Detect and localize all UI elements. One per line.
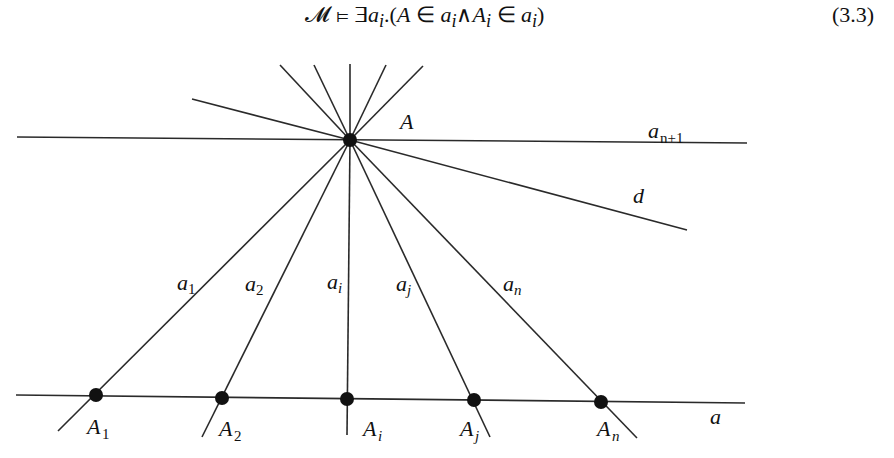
ray-aj xyxy=(350,140,490,437)
label-An: A xyxy=(595,416,611,441)
label-ai-sub: i xyxy=(338,280,342,296)
label-an: a xyxy=(503,271,514,296)
label-an-sub: n xyxy=(514,282,522,298)
label-An-sub: n xyxy=(612,428,620,444)
label-a: a xyxy=(710,404,721,429)
ray-ai xyxy=(347,140,350,435)
label-A: A xyxy=(398,109,414,134)
label-a-n-plus-1: a xyxy=(648,118,659,143)
label-A1-sub: 1 xyxy=(102,426,110,442)
label-Ai-sub: i xyxy=(378,428,382,444)
ray-an xyxy=(350,140,637,438)
upper-ray-4 xyxy=(350,65,386,140)
point-Ai xyxy=(340,392,354,406)
label-a-n-plus-1-sub: n+1 xyxy=(660,130,683,146)
label-Ai: A xyxy=(361,416,377,441)
geometry-diagram: A a n+1 d a a 1 a 2 a i a j a n A 1 A 2 … xyxy=(0,0,894,458)
upper-left-ray xyxy=(192,99,350,140)
label-Aj: A xyxy=(458,416,474,441)
label-A2-sub: 2 xyxy=(234,428,242,444)
point-A2 xyxy=(215,391,229,405)
line-a xyxy=(16,395,745,403)
upper-ray-1 xyxy=(280,65,350,140)
point-A xyxy=(343,133,357,147)
label-aj: a xyxy=(396,271,407,296)
label-a2-sub: 2 xyxy=(256,282,264,298)
label-a1: a xyxy=(177,270,188,295)
label-ai: a xyxy=(327,269,338,294)
point-A1 xyxy=(89,388,103,402)
label-a1-sub: 1 xyxy=(188,281,196,297)
point-An xyxy=(594,395,608,409)
label-Aj-sub: j xyxy=(473,428,479,444)
point-Aj xyxy=(467,393,481,407)
label-A1: A xyxy=(85,414,101,439)
label-a2: a xyxy=(245,271,256,296)
ray-a1 xyxy=(58,140,350,431)
label-A2: A xyxy=(217,416,233,441)
label-d: d xyxy=(633,183,645,208)
line-a-n-plus-1 xyxy=(17,137,747,143)
upper-ray-2 xyxy=(314,65,350,140)
